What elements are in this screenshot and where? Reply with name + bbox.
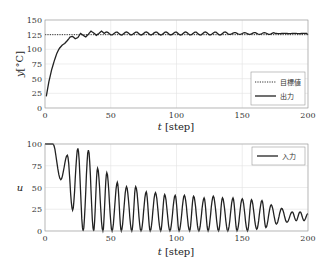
bottom-x-axis-label: t[step] — [158, 246, 194, 257]
y-tick-label: 100 — [27, 140, 42, 149]
chart-canvas: 0501001502000255075100125150 y[°C] t[ste… — [0, 0, 327, 270]
y-tick-label: 0 — [37, 227, 42, 236]
x-tick-label: 50 — [106, 111, 116, 120]
top-legend: 目標値 出力 — [251, 72, 305, 105]
y-tick-label: 125 — [27, 31, 42, 40]
y-tick-label: 75 — [32, 162, 42, 171]
top-y-axis-label: y[°C] — [14, 51, 25, 78]
x-tick-label: 50 — [106, 234, 116, 243]
x-tick-label: 100 — [169, 111, 184, 120]
y-tick-label: 150 — [27, 16, 42, 25]
y-tick-label: 50 — [32, 75, 42, 84]
x-tick-label: 0 — [42, 234, 47, 243]
y-tick-label: 50 — [32, 184, 42, 193]
x-tick-label: 150 — [235, 111, 250, 120]
output-temperature-plot: 0501001502000255075100125150 y[°C] t[ste… — [14, 16, 316, 132]
x-tick-label: 150 — [235, 234, 250, 243]
top-x-axis-label: t[step] — [158, 121, 194, 132]
y-tick-label: 0 — [37, 104, 42, 113]
bottom-y-axis-label: u — [17, 182, 23, 193]
input-plot: 0501001502000255075100 u t[step] 入力 — [17, 140, 316, 257]
x-tick-label: 100 — [169, 234, 184, 243]
bottom-legend: 入力 — [252, 147, 305, 165]
x-tick-label: 200 — [300, 111, 315, 120]
x-tick-label: 200 — [300, 234, 315, 243]
x-tick-label: 0 — [42, 111, 47, 120]
legend-input-label: 入力 — [282, 152, 296, 161]
y-tick-label: 75 — [32, 60, 42, 69]
y-tick-label: 25 — [32, 89, 42, 98]
y-tick-label: 100 — [27, 45, 42, 54]
y-tick-label: 25 — [32, 205, 42, 214]
legend-output-label: 出力 — [280, 92, 294, 101]
legend-target-label: 目標値 — [280, 78, 301, 87]
